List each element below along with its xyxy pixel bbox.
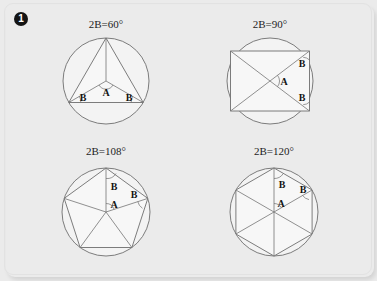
triangle-panel: 2B=60° B A B (58, 18, 154, 130)
triangle-figure: B A B (58, 33, 154, 129)
label-B-apex: B (111, 181, 118, 192)
label-B-left: B (80, 92, 87, 103)
hexagon-panel-title: 2B=120° (224, 145, 324, 157)
pentagon-panel: 2B=108° B A B (56, 145, 156, 261)
label-B-bottom: B (299, 92, 306, 103)
label-B-apex: B (279, 179, 286, 190)
hexagon-figure: B A B (224, 160, 324, 260)
label-A-center: A (102, 87, 110, 98)
pentagon-figure: B A B (56, 160, 156, 260)
square-figure: B A B (222, 33, 318, 129)
figure-plate: 1 2B=60° B A B (0, 0, 377, 281)
label-B-right: B (126, 92, 133, 103)
label-B-right: B (131, 189, 138, 200)
label-B-top: B (299, 58, 306, 69)
circled-number-one-icon: 1 (14, 12, 28, 26)
label-A-center: A (277, 198, 285, 209)
square-panel-title: 2B=90° (222, 18, 318, 30)
label-B-right: B (300, 184, 307, 195)
label-A-center: A (280, 76, 288, 87)
hexagon-panel: 2B=120° B A B (224, 145, 324, 261)
label-A-center: A (110, 199, 118, 210)
triangle-panel-title: 2B=60° (58, 18, 154, 30)
pentagon-panel-title: 2B=108° (56, 145, 156, 157)
square-panel: 2B=90° B A B (222, 18, 318, 130)
